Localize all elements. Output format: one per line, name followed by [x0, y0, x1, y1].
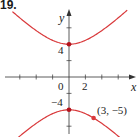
x-axis-label: x — [130, 80, 137, 94]
plot-area: y x 0 2 4 −4 (3, −5) — [0, 0, 140, 137]
data-point — [67, 42, 72, 47]
data-point — [91, 116, 96, 121]
data-point — [67, 108, 72, 113]
point-label: (3, −5) — [97, 104, 127, 117]
y-tick-label-4: 4 — [58, 44, 64, 56]
x-tick-label-2: 2 — [82, 80, 88, 92]
hyperbola-figure: 19. y x 0 2 4 −4 (3, −5) — [0, 0, 140, 137]
origin-label: 0 — [58, 80, 64, 92]
y-axis-label: y — [58, 11, 65, 25]
problem-number: 19. — [0, 0, 17, 12]
x-axis — [5, 75, 136, 80]
y-tick-label-neg4: −4 — [51, 96, 63, 108]
